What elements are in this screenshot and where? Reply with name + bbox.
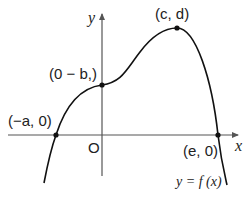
function-curve (44, 28, 227, 185)
curve-label: y = f (x) (176, 175, 222, 189)
y-axis-label: y (88, 10, 95, 26)
label-y-intercept: (0 − b,) (49, 66, 97, 81)
point-left-root (53, 132, 58, 137)
point-maximum (174, 25, 179, 30)
label-right-root: (e, 0) (183, 143, 218, 158)
origin-label: O (88, 140, 100, 155)
function-graph (0, 0, 251, 197)
point-y-intercept (99, 82, 104, 87)
point-right-root (215, 132, 220, 137)
label-left-root: (−a, 0) (8, 113, 52, 128)
label-maximum: (c, d) (155, 6, 189, 21)
x-axis-label: x (235, 138, 242, 154)
